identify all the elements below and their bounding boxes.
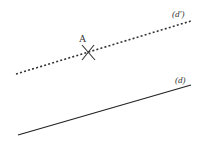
point-a-label: A — [79, 33, 87, 44]
point-a-cross-icon — [82, 45, 95, 60]
line-d-label: (d) — [175, 75, 186, 85]
line-d — [18, 85, 191, 135]
line-d-prime-label: (d') — [172, 9, 184, 19]
line-d-prime — [16, 21, 191, 74]
geometry-diagram: A (d') (d) — [0, 0, 204, 147]
